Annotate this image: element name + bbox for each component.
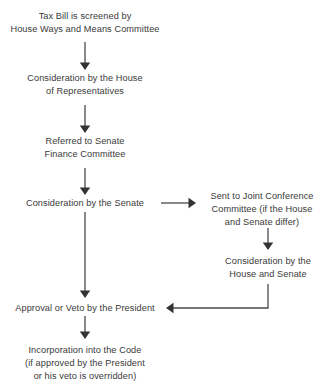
node-text-line: House and Senate [225, 268, 311, 281]
flowchart-node-tax-bill-screening: Tax Bill is screened byHouse Ways and Me… [0, 10, 328, 36]
node-text-line: and Senate differ) [210, 216, 313, 229]
flowchart-node-joint-conference-committee: Sent to Joint ConferenceCommittee (if th… [0, 190, 328, 230]
node-text-line: Approval or Veto by the President [15, 302, 155, 315]
node-text-line: Tax Bill is screened by [10, 10, 159, 23]
arrowhead-arrow-senate-to-president [80, 291, 90, 299]
node-text-line: Incorporation into the Code [25, 344, 145, 357]
flowchart-node-house-and-senate-consideration: Consideration by theHouse and Senate [0, 255, 328, 281]
arrowhead-arrow-joint-conference-to-house-senate [263, 243, 273, 251]
flowchart-node-senate-finance-referral: Referred to SenateFinance Committee [0, 135, 328, 161]
arrowhead-arrow-screening-to-house [80, 63, 90, 71]
arrowhead-arrow-house-to-senate-referral [80, 126, 90, 134]
node-text-line: Sent to Joint Conference [210, 190, 313, 203]
node-text-line: House Ways and Means Committee [10, 23, 159, 36]
tax-legislation-flowchart: Tax Bill is screened byHouse Ways and Me… [0, 0, 328, 391]
node-text-line: Referred to Senate [44, 135, 125, 148]
node-text-line: Finance Committee [44, 148, 125, 161]
node-text-line: Consideration by the [225, 255, 311, 268]
node-text-line: (if approved by the President [25, 357, 145, 370]
node-text-line: of Representatives [27, 85, 142, 98]
node-text-line: Consideration by the House [27, 72, 142, 85]
node-text-line: Committee (if the House [210, 203, 313, 216]
node-text-line: or his veto is overridden) [25, 370, 145, 383]
arrowhead-arrow-president-to-incorporation [80, 332, 90, 340]
flowchart-node-house-consideration: Consideration by the Houseof Representat… [0, 72, 328, 98]
flowchart-node-presidential-approval-or-veto: Approval or Veto by the President [0, 302, 328, 315]
flowchart-node-incorporation-into-code: Incorporation into the Code(if approved … [0, 344, 328, 384]
